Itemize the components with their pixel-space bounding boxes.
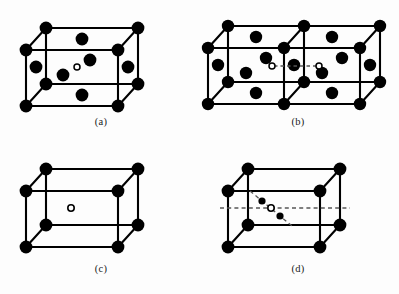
panel-c: (c) <box>16 155 186 267</box>
interstitial-vacancy <box>74 64 80 70</box>
cube-edges <box>26 169 138 247</box>
panel-a: (a) <box>16 8 186 120</box>
panel-a-label: (a) <box>16 116 186 127</box>
body-center-vacancy <box>268 205 274 211</box>
panel-c-lattice-svg <box>16 155 186 267</box>
panel-b-label: (b) <box>200 116 396 127</box>
figure-root: (a) <box>0 0 399 294</box>
panel-c-label: (c) <box>16 263 186 274</box>
panel-b: (b) <box>200 8 396 120</box>
face-center-atoms <box>212 31 376 99</box>
panel-b-lattice-svg <box>200 8 396 120</box>
panel-d-lattice-svg <box>200 155 396 267</box>
body-center-vacancy <box>68 205 74 211</box>
panel-a-lattice-svg <box>16 8 186 120</box>
panel-d: (d) <box>200 155 396 267</box>
panel-d-label: (d) <box>200 263 396 274</box>
